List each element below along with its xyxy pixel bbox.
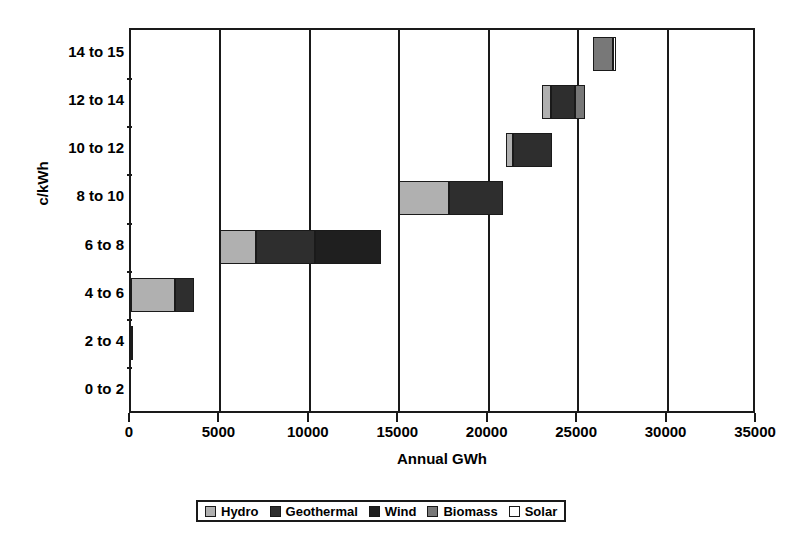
legend-item-hydro: Hydro [205, 504, 259, 519]
bar-row [131, 278, 757, 312]
legend-label-hydro: Hydro [221, 504, 259, 519]
bar-row [131, 230, 757, 264]
bar-segment-hydro [506, 133, 513, 167]
x-tick-label-35000: 35000 [734, 423, 776, 440]
y-tick-label-6-to-8: 6 to 8 [40, 237, 124, 253]
legend-item-wind: Wind [369, 504, 417, 519]
x-tick-label-10000: 10000 [287, 423, 329, 440]
y-tick-label-4-to-6: 4 to 6 [40, 285, 124, 301]
x-axis-tick-25000 [575, 413, 577, 422]
bar-segment-hydro [131, 326, 133, 360]
bar-segment-biomass [575, 85, 586, 119]
bar-segment-hydro [131, 278, 175, 312]
chart-legend: HydroGeothermalWindBiomassSolar [196, 500, 566, 522]
legend-swatch-geothermal-icon [270, 506, 281, 517]
bars-layer [131, 30, 753, 411]
x-tick-label-0: 0 [125, 423, 133, 440]
x-axis-ticks [129, 413, 755, 422]
x-tick-label-20000: 20000 [466, 423, 508, 440]
y-tick-label-2-to-4: 2 to 4 [40, 333, 124, 349]
x-axis-title: Annual GWh [129, 450, 755, 467]
stacked-bar-chart: c/kWh 0 to 22 to 44 to 66 to 88 to 1010 … [0, 0, 804, 546]
x-axis-tick-20000 [486, 413, 488, 422]
bar-segment-hydro [220, 230, 256, 264]
legend-item-geothermal: Geothermal [270, 504, 358, 519]
bar-segment-biomass [593, 37, 613, 71]
plot-area [129, 28, 755, 413]
bar-segment-geothermal [551, 85, 574, 119]
x-tick-label-25000: 25000 [555, 423, 597, 440]
y-axis-tick [127, 78, 132, 80]
bar-segment-solar [613, 37, 616, 71]
x-axis-tick-35000 [754, 413, 756, 422]
bar-row [131, 326, 757, 360]
x-axis-tick-15000 [396, 413, 398, 422]
x-axis-tick-5000 [217, 413, 219, 422]
bar-row [131, 374, 757, 408]
x-axis-tick-30000 [665, 413, 667, 422]
y-axis-tick [127, 174, 132, 176]
bar-row [131, 181, 757, 215]
legend-swatch-wind-icon [369, 506, 380, 517]
legend-swatch-biomass-icon [427, 506, 438, 517]
x-axis-tick-10000 [307, 413, 309, 422]
y-axis-tick [127, 367, 132, 369]
x-tick-label-5000: 5000 [202, 423, 235, 440]
y-axis-tick [127, 223, 132, 225]
bar-row [131, 85, 757, 119]
bar-row [131, 37, 757, 71]
x-axis-tick-0 [128, 413, 130, 422]
bar-segment-geothermal [256, 230, 315, 264]
y-axis-tick [127, 319, 132, 321]
y-axis-tick [127, 126, 132, 128]
y-axis-tick [127, 271, 132, 273]
bar-row [131, 133, 757, 167]
bar-segment-geothermal [513, 133, 552, 167]
y-tick-label-12-to-14: 12 to 14 [40, 92, 124, 108]
legend-swatch-solar-icon [509, 506, 520, 517]
y-tick-label-10-to-12: 10 to 12 [40, 140, 124, 156]
y-tick-label-0-to-2: 0 to 2 [40, 381, 124, 397]
bar-segment-hydro [399, 181, 449, 215]
x-tick-label-15000: 15000 [376, 423, 418, 440]
bar-segment-geothermal [449, 181, 503, 215]
y-tick-label-8-to-10: 8 to 10 [40, 188, 124, 204]
bar-segment-wind [315, 230, 381, 264]
legend-label-solar: Solar [525, 504, 558, 519]
y-axis-tick-labels: 0 to 22 to 44 to 66 to 88 to 1010 to 121… [40, 28, 124, 413]
legend-label-wind: Wind [385, 504, 417, 519]
legend-item-biomass: Biomass [427, 504, 497, 519]
legend-label-geothermal: Geothermal [286, 504, 358, 519]
legend-item-solar: Solar [509, 504, 558, 519]
x-axis-tick-labels: 05000100001500020000250003000035000 [129, 423, 755, 443]
legend-swatch-hydro-icon [205, 506, 216, 517]
legend-label-biomass: Biomass [443, 504, 497, 519]
x-tick-label-30000: 30000 [645, 423, 687, 440]
bar-segment-geothermal [175, 278, 194, 312]
bar-segment-hydro [542, 85, 551, 119]
y-tick-label-14-to-15: 14 to 15 [40, 44, 124, 60]
